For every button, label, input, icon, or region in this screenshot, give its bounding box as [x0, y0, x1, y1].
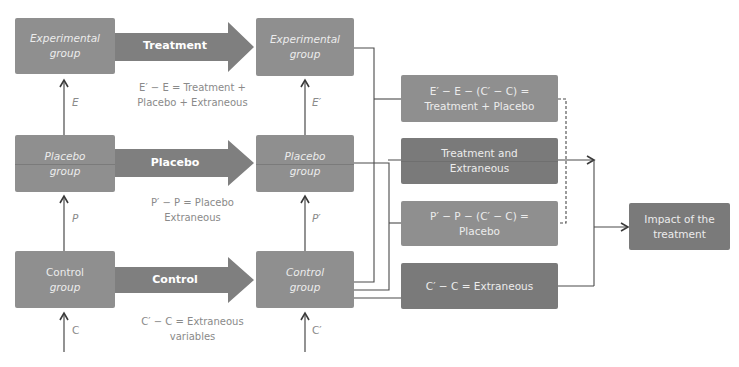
- placebo-group-after: Placebogroup: [256, 135, 354, 192]
- var-e-prime: E′: [312, 96, 321, 108]
- treatment-arrow-label: Treatment: [130, 39, 220, 52]
- control-group-after: Controlgroup: [256, 251, 354, 308]
- placebo-equation: P′ − P = Placebo Extraneous: [120, 195, 265, 225]
- placebo-arrow-label: Placebo: [130, 156, 220, 169]
- var-p-prime: P′: [312, 212, 321, 224]
- result-placebo: P′ − P − (C′ − C) =Placebo: [401, 201, 558, 246]
- var-c: C: [72, 324, 79, 336]
- treatment-equation: E′ − E = Treatment + Placebo + Extraneou…: [120, 80, 265, 110]
- var-e: E: [72, 96, 79, 108]
- result-treatment-placebo: E′ − E − (C′ − C) =Treatment + Placebo: [401, 75, 558, 122]
- var-c-prime: C′: [312, 324, 322, 336]
- experimental-group-before: Experimentalgroup: [15, 18, 115, 74]
- control-arrow-label: Control: [130, 273, 220, 286]
- impact-of-treatment: Impact of thetreatment: [629, 203, 730, 250]
- var-p: P: [72, 212, 78, 224]
- result-treatment-extraneous: Treatment andExtraneous: [401, 138, 558, 184]
- result-extraneous: C′ − C = Extraneous: [401, 263, 558, 309]
- experimental-group-after: Experimentalgroup: [256, 18, 354, 76]
- placebo-group-before: Placebogroup: [15, 135, 115, 192]
- control-equation: C′ − C = Extraneous variables: [120, 314, 265, 344]
- control-group-before: Controlgroup: [15, 251, 115, 308]
